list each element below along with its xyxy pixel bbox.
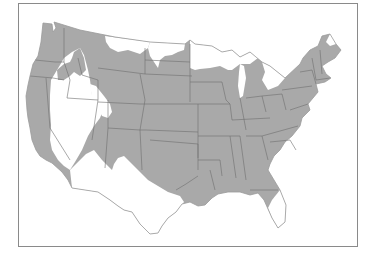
us-distribution-map <box>0 0 377 261</box>
